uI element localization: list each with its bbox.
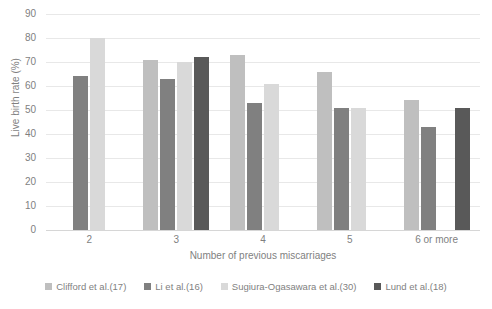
x-axis-tick-label: 2 (46, 234, 133, 245)
bar (247, 103, 262, 230)
bar-slot (73, 14, 88, 230)
bar (194, 57, 209, 230)
bar (264, 84, 279, 230)
bar-slot (143, 14, 158, 230)
bar-slot (177, 14, 192, 230)
y-axis-tick-label: 40 (25, 129, 36, 139)
y-axis-tick-label: 70 (25, 57, 36, 67)
bar-group (306, 14, 393, 230)
bar-slot (247, 14, 262, 230)
y-axis-tick-label: 80 (25, 33, 36, 43)
legend-label: Sugiura-Ogasawara et al.(30) (232, 281, 357, 292)
bar-group (133, 14, 220, 230)
x-axis-tick-label: 4 (220, 234, 307, 245)
bar-slot (438, 14, 453, 230)
bar (421, 127, 436, 230)
y-axis-tick-label: 30 (25, 153, 36, 163)
bar (73, 76, 88, 230)
x-axis-tick-label: 6 or more (393, 234, 480, 245)
bar-group (220, 14, 307, 230)
bar-slot (230, 14, 245, 230)
legend-item[interactable]: Clifford et al.(17) (45, 281, 126, 292)
bar-slot (351, 14, 366, 230)
y-axis-title: Live birth rate (%) (10, 23, 21, 173)
legend-swatch-icon (374, 283, 381, 290)
bar-slot (194, 14, 209, 230)
bar (143, 60, 158, 230)
bar-slot (317, 14, 332, 230)
legend-item[interactable]: Sugiura-Ogasawara et al.(30) (221, 281, 357, 292)
bar (317, 72, 332, 230)
y-axis-tick-label: 20 (25, 177, 36, 187)
bar-group (393, 14, 480, 230)
bar (160, 79, 175, 230)
bar-slot (404, 14, 419, 230)
bar (351, 108, 366, 230)
bar-slot (334, 14, 349, 230)
bar-slot (421, 14, 436, 230)
legend-swatch-icon (221, 283, 228, 290)
bar-slot (368, 14, 383, 230)
bar-slot (281, 14, 296, 230)
bar (455, 108, 470, 230)
bar (404, 100, 419, 230)
bar-chart: 9080706050403020100 Live birth rate (%) … (0, 0, 492, 309)
bar (230, 55, 245, 230)
x-axis-tick-label: 5 (306, 234, 393, 245)
bar-groups (46, 14, 480, 230)
bar (177, 62, 192, 230)
y-axis-tick-label: 90 (25, 9, 36, 19)
legend-item[interactable]: Lund et al.(18) (374, 281, 446, 292)
bar-slot (264, 14, 279, 230)
y-axis-tick-label: 60 (25, 81, 36, 91)
bar (90, 38, 105, 230)
x-axis-title: Number of previous miscarriages (46, 250, 480, 261)
bar-group (46, 14, 133, 230)
x-axis: 23456 or more (46, 234, 480, 245)
legend-label: Lund et al.(18) (385, 281, 446, 292)
y-axis-tick-label: 10 (25, 201, 36, 211)
bar-slot (160, 14, 175, 230)
legend-swatch-icon (144, 283, 151, 290)
y-axis-tick-label: 0 (30, 225, 36, 235)
bar-slot (90, 14, 105, 230)
chart-legend: Clifford et al.(17)Li et al.(16)Sugiura-… (0, 281, 492, 292)
bar-slot (107, 14, 122, 230)
y-axis-tick-label: 50 (25, 105, 36, 115)
plot-area (46, 14, 480, 230)
legend-swatch-icon (45, 283, 52, 290)
legend-item[interactable]: Li et al.(16) (144, 281, 203, 292)
legend-label: Li et al.(16) (155, 281, 203, 292)
bar-slot (56, 14, 71, 230)
legend-label: Clifford et al.(17) (56, 281, 126, 292)
y-axis: 9080706050403020100 (0, 14, 42, 230)
bar-slot (455, 14, 470, 230)
bar (334, 108, 349, 230)
grid-line (46, 230, 480, 231)
x-axis-tick-label: 3 (133, 234, 220, 245)
